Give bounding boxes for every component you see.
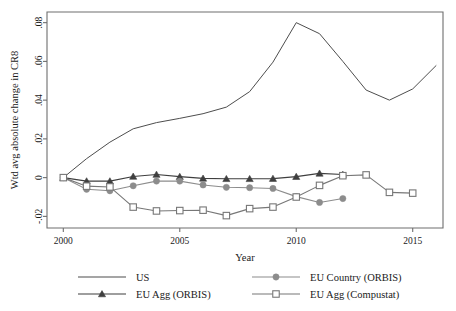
series-us — [63, 23, 436, 178]
marker-square-open — [83, 183, 89, 189]
marker-square-open — [273, 291, 279, 297]
marker-square-open — [409, 190, 415, 196]
marker-circle — [153, 178, 159, 184]
marker-circle — [340, 195, 346, 201]
y-axis: -.020.02.04.06.08 — [34, 16, 47, 223]
y-tick-label: .02 — [34, 133, 44, 145]
x-tick-label: 2010 — [287, 236, 306, 246]
x-tick-label: 2005 — [170, 236, 189, 246]
marker-circle — [200, 182, 206, 188]
legend-item-us[interactable]: US — [78, 272, 150, 283]
marker-square-open — [340, 172, 346, 178]
y-tick-label: .04 — [34, 94, 44, 106]
x-tick-label: 2000 — [54, 236, 73, 246]
y-tick-label: -.02 — [34, 209, 44, 224]
chart-figure: -.020.02.04.06.08Wtd avg absolute change… — [0, 0, 456, 311]
marker-square-open — [223, 212, 229, 218]
legend-item-eu-agg-compustat[interactable]: EU Agg (Compustat) — [252, 289, 400, 301]
legend-label: EU Agg (Compustat) — [310, 289, 400, 301]
marker-square-open — [130, 204, 136, 210]
plot-border — [47, 12, 443, 228]
series-path — [63, 23, 436, 178]
y-tick-label: .06 — [34, 55, 44, 67]
legend-item-eu-agg-orbis[interactable]: EU Agg (ORBIS) — [78, 289, 211, 301]
marker-square-open — [270, 204, 276, 210]
marker-square-open — [386, 189, 392, 195]
chart-legend: USEU Country (ORBIS)EU Agg (ORBIS)EU Agg… — [78, 272, 402, 301]
x-axis: 2000200520102015 — [54, 228, 423, 246]
marker-square-open — [246, 205, 252, 211]
marker-square-open — [177, 207, 183, 213]
legend-item-eu-country-orbis[interactable]: EU Country (ORBIS) — [252, 272, 402, 284]
marker-square-open — [316, 182, 322, 188]
x-axis-title: Year — [235, 252, 255, 263]
legend-label: EU Country (ORBIS) — [310, 272, 402, 284]
series-path — [63, 175, 412, 216]
legend-label: EU Agg (ORBIS) — [136, 289, 211, 301]
marker-circle — [223, 184, 229, 190]
marker-circle — [130, 183, 136, 189]
marker-square-open — [200, 207, 206, 213]
y-tick-label: 0 — [34, 175, 44, 180]
x-tick-label: 2015 — [403, 236, 422, 246]
marker-square-open — [153, 208, 159, 214]
marker-square-open — [363, 172, 369, 178]
marker-square-open — [60, 174, 66, 180]
plot-frame — [47, 12, 443, 228]
marker-circle — [273, 274, 279, 280]
chart-svg: -.020.02.04.06.08Wtd avg absolute change… — [0, 0, 456, 311]
y-tick-label: .08 — [34, 16, 44, 28]
y-axis-title: Wtd avg absolute change in CR8 — [9, 51, 20, 190]
marker-square-open — [293, 194, 299, 200]
marker-circle — [177, 178, 183, 184]
marker-circle — [247, 185, 253, 191]
marker-circle — [316, 199, 322, 205]
marker-circle — [270, 185, 276, 191]
legend-label: US — [136, 272, 150, 283]
marker-square-open — [107, 184, 113, 190]
